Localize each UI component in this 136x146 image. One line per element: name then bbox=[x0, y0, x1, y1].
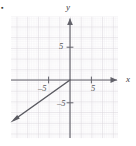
x-axis-name-label: x bbox=[126, 75, 130, 84]
x-axis-tick-label-neg5: –5 bbox=[38, 84, 47, 93]
grid-pattern bbox=[11, 17, 118, 139]
y-axis-name-label: y bbox=[66, 3, 70, 12]
coordinate-plane-svg bbox=[0, 0, 136, 146]
grid-group bbox=[11, 17, 118, 139]
y-axis-tick-label-neg5: –5 bbox=[57, 99, 66, 108]
y-axis-tick-label-pos5: 5 bbox=[59, 42, 63, 51]
graph-figure: ▪ –5 5 5 –5 x y bbox=[0, 0, 136, 146]
x-axis-tick-label-pos5: 5 bbox=[91, 84, 95, 93]
figure-bullet-mark: ▪ bbox=[1, 5, 3, 12]
